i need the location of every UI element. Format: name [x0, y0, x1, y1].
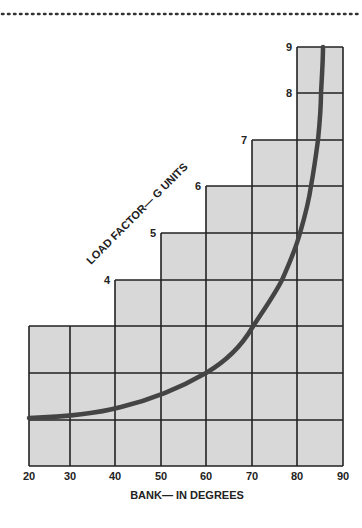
x-tick-60: 60: [200, 470, 212, 482]
x-tick-30: 30: [64, 470, 76, 482]
y-label-4: 4: [104, 274, 111, 286]
x-tick-20: 20: [23, 470, 35, 482]
y-label-8: 8: [286, 87, 292, 99]
x-axis-title: BANK— IN DEGREES: [130, 489, 244, 501]
y-label-6: 6: [195, 180, 201, 192]
load-factor-chart: 4 5 6 7 8 9 LOAD FACTOR— G UNITS 20 30 4…: [0, 0, 362, 528]
x-tick-90: 90: [337, 470, 349, 482]
y-label-7: 7: [241, 134, 247, 146]
x-tick-labels: 20 30 40 50 60 70 80 90: [23, 470, 349, 482]
x-tick-70: 70: [246, 470, 258, 482]
x-tick-40: 40: [109, 470, 121, 482]
x-tick-80: 80: [291, 470, 303, 482]
x-tick-50: 50: [155, 470, 167, 482]
y-label-5: 5: [150, 227, 156, 239]
grid-fill: [29, 47, 343, 466]
y-label-9: 9: [286, 41, 292, 53]
